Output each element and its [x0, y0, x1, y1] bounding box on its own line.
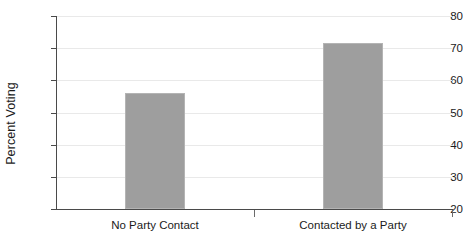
y-axis-spine: [56, 16, 57, 210]
gridline: [56, 80, 452, 81]
gridline: [56, 16, 452, 17]
bar: [125, 93, 185, 209]
gridline: [56, 113, 452, 114]
x-axis-tick-label: Contacted by a Party: [299, 219, 406, 231]
plot-area: [56, 16, 452, 209]
y-axis-title: Percent Voting: [0, 0, 22, 247]
bar-chart-figure: Percent Voting 20304050607080 No Party C…: [0, 0, 463, 247]
gridline: [56, 48, 452, 49]
gridline: [56, 145, 452, 146]
bar: [323, 43, 383, 209]
x-axis-tick: [254, 210, 255, 217]
gridline: [56, 177, 452, 178]
x-axis-tick: [452, 210, 453, 217]
x-axis-tick-label: No Party Contact: [111, 219, 199, 231]
